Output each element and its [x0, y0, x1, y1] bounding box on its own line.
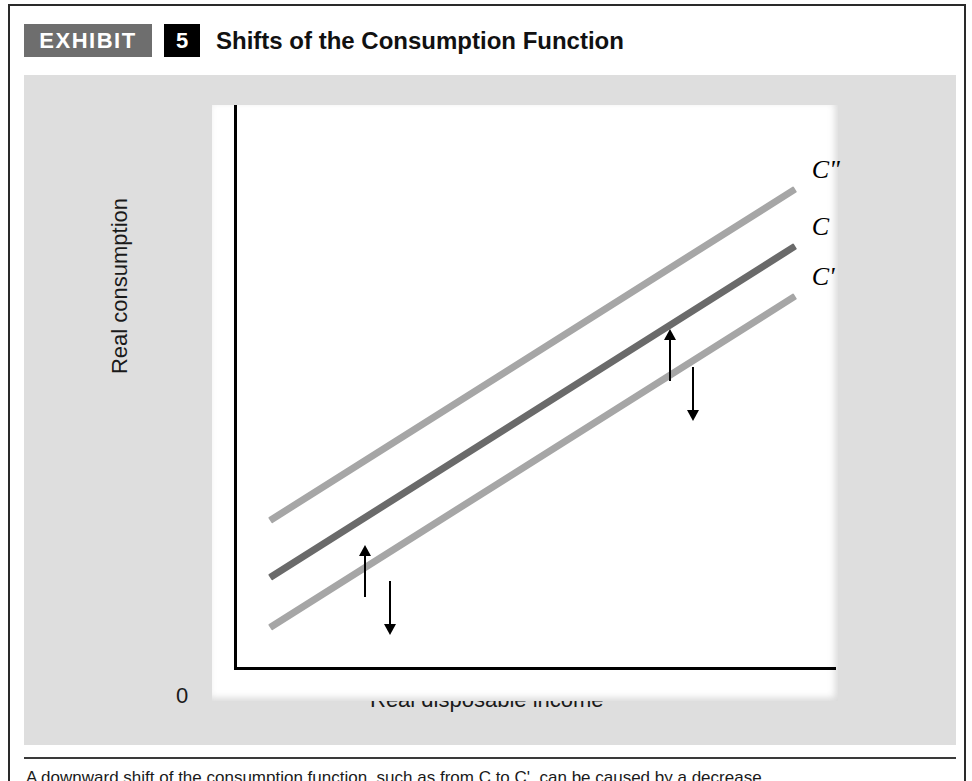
exhibit-header: EXHIBIT 5 Shifts of the Consumption Func… — [24, 22, 944, 64]
exhibit-tag: EXHIBIT — [24, 24, 152, 57]
line-label-c: C — [812, 212, 829, 242]
x-axis-line — [234, 667, 836, 670]
consumption-line-c-double-prime — [268, 186, 797, 523]
shift-down-arrow-right — [686, 367, 700, 421]
arrow-head-icon — [687, 410, 699, 421]
figure-caption: A downward shift of the consumption func… — [26, 766, 954, 781]
consumption-line-c — [268, 243, 797, 580]
y-axis-line — [234, 105, 237, 670]
page-frame-right-rule — [964, 4, 966, 781]
arrow-shaft — [692, 367, 694, 412]
y-axis-label: Real consumption — [107, 166, 133, 406]
figure-panel: Real consumption 0 Real disposable incom… — [24, 75, 956, 745]
arrow-shaft — [669, 338, 671, 381]
consumption-line-c-prime — [268, 293, 797, 630]
arrow-shaft — [389, 581, 391, 626]
page-title: Shifts of the Consumption Function — [216, 24, 624, 57]
page-frame-top-rule — [8, 4, 966, 6]
exhibit-page: EXHIBIT 5 Shifts of the Consumption Func… — [0, 0, 972, 781]
arrow-shaft — [364, 554, 366, 597]
line-label-c-double-prime: C" — [812, 155, 840, 185]
shift-down-arrow-left — [383, 581, 397, 635]
plot-area: C" C C' — [212, 105, 838, 701]
shift-up-arrow-right — [663, 329, 677, 381]
line-label-c-prime: C' — [812, 262, 835, 292]
caption-divider — [24, 757, 956, 759]
page-frame-left-rule — [8, 4, 10, 781]
origin-label: 0 — [176, 683, 188, 709]
exhibit-number-badge: 5 — [164, 24, 200, 57]
arrow-head-icon — [384, 624, 396, 635]
shift-up-arrow-left — [358, 545, 372, 597]
